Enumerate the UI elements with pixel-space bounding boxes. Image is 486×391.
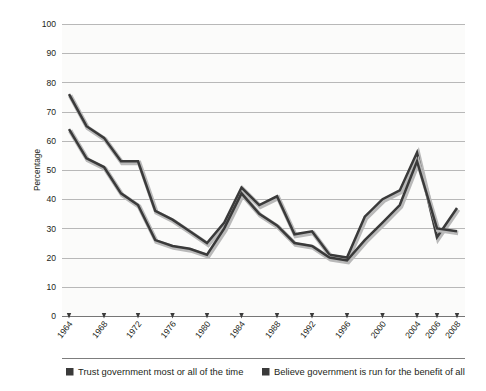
y-axis-tick-label: 80 [46, 78, 56, 88]
y-axis-tick-label: 100 [42, 19, 57, 29]
x-axis-tick-label: 2000 [368, 319, 388, 340]
x-axis-tick-labels: 1964196819721976198019841988199219962000… [55, 319, 463, 340]
x-axis-tick-label: 1992 [298, 319, 318, 340]
legend-label: Believe government is run for the benefi… [274, 366, 465, 377]
x-axis-tick-label: 2006 [423, 319, 443, 340]
legend-swatch [262, 368, 270, 376]
x-axis-tick-label: 1988 [263, 319, 283, 340]
x-axis-tick-label: 1972 [124, 319, 144, 340]
y-axis-tick-labels: 0102030405060708090100 [42, 19, 57, 321]
y-axis-tick-label: 90 [46, 48, 56, 58]
legend-label: Trust government most or all of the time [78, 366, 243, 377]
x-axis-tick-label: 2004 [403, 319, 423, 340]
x-axis-tick-label: 2008 [443, 319, 463, 340]
x-axis-tick-label: 1980 [193, 319, 213, 340]
y-axis-tick-label: 10 [46, 282, 56, 292]
y-axis-tick-label: 20 [46, 253, 56, 263]
x-axis-tick-label: 1964 [55, 319, 75, 340]
line-chart: 0102030405060708090100 Percentage 196419… [0, 0, 486, 391]
y-axis-tick-label: 70 [46, 107, 56, 117]
x-axis-tick-label: 1984 [227, 319, 247, 340]
y-axis-tick-label: 0 [51, 311, 56, 321]
x-axis-tick-label: 1996 [333, 319, 353, 340]
legend-swatch [66, 368, 74, 376]
y-axis-tick-label: 50 [46, 165, 56, 175]
chart-container: 0102030405060708090100 Percentage 196419… [0, 0, 486, 391]
y-axis-tick-label: 40 [46, 194, 56, 204]
y-axis-tick-label: 60 [46, 136, 56, 146]
x-axis-tick-label: 1976 [158, 319, 178, 340]
y-axis-tick-label: 30 [46, 224, 56, 234]
x-axis-tick-label: 1968 [90, 319, 110, 340]
y-axis-title: Percentage [33, 149, 42, 191]
plot-background [62, 24, 465, 316]
legend: Trust government most or all of the time… [66, 366, 465, 377]
